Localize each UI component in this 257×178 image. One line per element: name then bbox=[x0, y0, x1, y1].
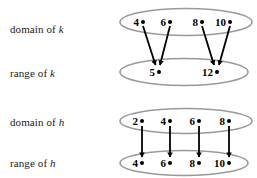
node-dot-domain-h-4 bbox=[168, 119, 172, 123]
node-dot-domain-h-6 bbox=[197, 119, 201, 123]
ellipse-range-of-k bbox=[120, 59, 248, 86]
arrow-k-10-to-12 bbox=[219, 26, 230, 65]
node-label-domain-k-6: 6 bbox=[161, 16, 167, 28]
node-label-range-k-5: 5 bbox=[150, 66, 156, 78]
node-label-range-h-6: 6 bbox=[161, 157, 167, 169]
node-dot-range-h-8 bbox=[197, 161, 201, 165]
node-dot-range-h-6 bbox=[168, 161, 172, 165]
ellipse-domain-of-k bbox=[120, 9, 252, 36]
node-label-domain-k-10: 10 bbox=[215, 16, 226, 28]
node-dot-domain-h-8 bbox=[227, 119, 231, 123]
node-label-range-h-4: 4 bbox=[133, 157, 139, 169]
arrow-k-4-to-5 bbox=[143, 26, 156, 65]
node-label-domain-k-8: 8 bbox=[193, 16, 199, 28]
node-dot-domain-k-10 bbox=[228, 20, 232, 24]
node-label-domain-h-4: 4 bbox=[161, 115, 167, 127]
node-label-domain-h-6: 6 bbox=[190, 115, 196, 127]
node-label-range-k-12: 12 bbox=[202, 66, 213, 78]
node-dot-domain-k-8 bbox=[200, 20, 204, 24]
node-label-domain-h-2: 2 bbox=[133, 115, 139, 127]
node-dot-domain-k-6 bbox=[168, 20, 172, 24]
node-dot-domain-h-2 bbox=[140, 119, 144, 123]
node-dot-range-h-10 bbox=[227, 161, 231, 165]
node-dot-domain-k-4 bbox=[141, 20, 145, 24]
node-label-range-h-10: 10 bbox=[214, 157, 225, 169]
node-label-domain-h-8: 8 bbox=[220, 115, 226, 127]
node-label-range-h-8: 8 bbox=[190, 157, 196, 169]
node-dot-range-k-12 bbox=[215, 70, 219, 74]
node-dot-range-k-5 bbox=[157, 70, 161, 74]
node-dot-range-h-4 bbox=[140, 161, 144, 165]
node-label-domain-k-4: 4 bbox=[134, 16, 140, 28]
function-mapping-diagram: domain of k range of k domain of h range… bbox=[0, 0, 257, 178]
